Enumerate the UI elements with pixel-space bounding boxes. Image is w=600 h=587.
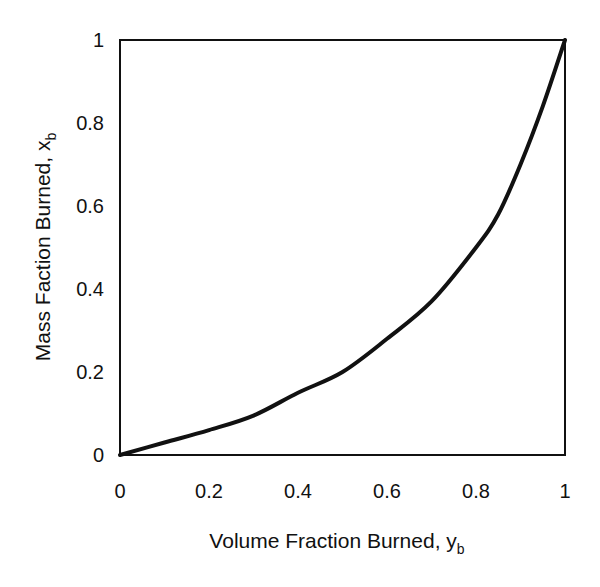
data-curve bbox=[120, 40, 565, 455]
y-tick-label: 0 bbox=[93, 444, 104, 466]
y-tick-label: 0.8 bbox=[76, 112, 104, 134]
plot-frame bbox=[120, 40, 565, 455]
y-axis-title: Mass Faction Burned, xb bbox=[31, 133, 59, 362]
x-tick-label: 0.2 bbox=[195, 480, 223, 502]
x-axis-title: Volume Fraction Burned, yb bbox=[209, 529, 464, 557]
x-axis-ticks: 00.20.40.60.81 bbox=[114, 480, 570, 502]
x-tick-label: 0.8 bbox=[462, 480, 490, 502]
y-tick-label: 0.4 bbox=[76, 278, 104, 300]
x-tick-label: 0.6 bbox=[373, 480, 401, 502]
y-axis-ticks: 00.20.40.60.81 bbox=[76, 29, 104, 466]
y-tick-label: 0.2 bbox=[76, 361, 104, 383]
y-tick-label: 0.6 bbox=[76, 195, 104, 217]
chart: 00.20.40.60.81 00.20.40.60.81 Volume Fra… bbox=[0, 0, 600, 587]
x-tick-label: 0.4 bbox=[284, 480, 312, 502]
x-tick-label: 1 bbox=[559, 480, 570, 502]
x-tick-label: 0 bbox=[114, 480, 125, 502]
y-tick-label: 1 bbox=[93, 29, 104, 51]
